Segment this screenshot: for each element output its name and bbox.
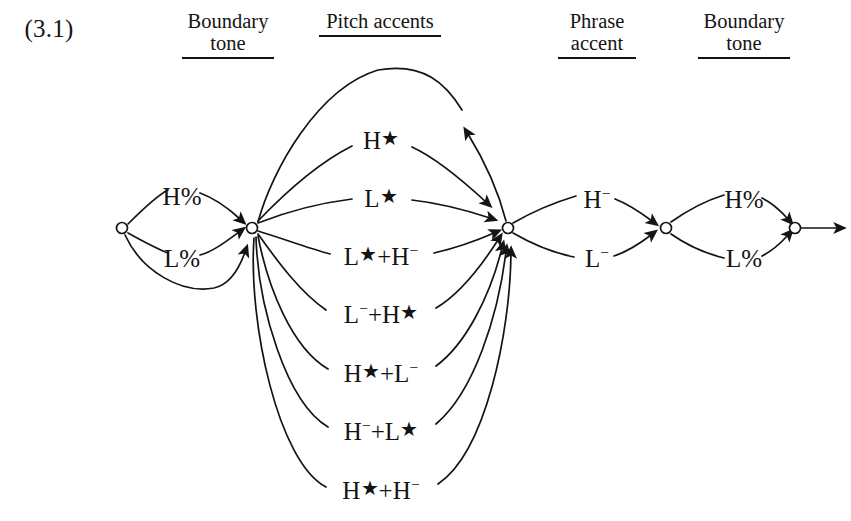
edge-from-l-star <box>412 200 490 218</box>
final-node <box>790 223 801 234</box>
edge-initial-l-percent-b <box>200 232 239 255</box>
edge-from-phrase-accent-l <box>614 235 651 256</box>
transition-network-graph <box>0 0 851 521</box>
edge-to-final-h-percent <box>671 195 724 222</box>
edge-initial-h-percent-b <box>200 193 240 219</box>
edge-from-l-star-h-minus <box>434 233 494 253</box>
edge-to-l-star-h-minus <box>258 231 330 254</box>
edge-initial-empty-bypass <box>125 235 245 289</box>
edge-to-phrase-accent-l <box>513 233 574 257</box>
edge-initial-h-percent-a <box>128 190 168 224</box>
edge-from-final-h-percent <box>762 198 788 219</box>
pitch-accent-hub-right <box>503 223 514 234</box>
edge-pitch-accent-iteration-loop-return <box>468 134 506 221</box>
pitch-accent-hub-left <box>247 223 258 234</box>
start-node <box>117 223 128 234</box>
intonation-grammar-figure: (3.1) BoundarytonePitch accentsPhraseacc… <box>0 0 851 521</box>
edge-from-h-star-l-minus <box>436 248 502 366</box>
edge-from-final-l-percent <box>762 235 788 256</box>
edge-to-final-l-percent <box>671 234 724 258</box>
edge-to-h-minus-l-star <box>256 237 328 427</box>
edge-pitch-accent-iteration-loop <box>258 68 462 222</box>
edge-to-l-minus-h-star <box>258 234 326 310</box>
edge-to-l-star <box>258 199 352 223</box>
edge-from-h-star <box>412 147 486 202</box>
phrase-accent-node <box>661 223 672 234</box>
edge-to-phrase-accent-h <box>513 196 576 223</box>
edge-from-phrase-accent-h <box>615 199 652 221</box>
